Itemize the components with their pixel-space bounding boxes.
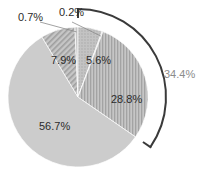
bracket-tick-end — [143, 142, 151, 148]
pie-chart-figure: 0.7% 0.2% 7.9% 5.6% 28.8% 56.7% 34.4% — [0, 0, 208, 193]
slice-label-0-7: 0.7% — [18, 12, 43, 23]
pie-chart-canvas — [0, 0, 208, 193]
bracket-label-34-4: 34.4% — [164, 69, 195, 80]
slice-label-0-2: 0.2% — [59, 7, 84, 18]
slice-label-56-7: 56.7% — [39, 121, 70, 132]
slice-label-7-9: 7.9% — [51, 55, 76, 66]
slice-label-28-8: 28.8% — [111, 94, 142, 105]
slice-label-5-6: 5.6% — [86, 55, 111, 66]
